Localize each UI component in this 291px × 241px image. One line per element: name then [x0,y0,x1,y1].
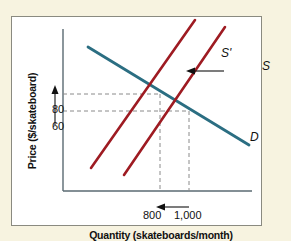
y-axis-title: Price ($/skateboard) [26,56,38,186]
figure-container: Price ($/skateboard) Quantity (skateboar… [0,0,291,241]
demand-curve [88,47,249,145]
supply-shift-arrow-icon [186,68,224,75]
y-tick-label-80: 80 [52,103,64,115]
supply-curve-label: S [262,59,270,73]
x-axis-title: Quantity (skateboards/month) [46,229,276,241]
supply-shifted-curve-label: S' [221,46,231,60]
demand-curve-label: D [250,130,259,144]
y-tick-label-60: 60 [52,120,64,132]
x-tick-label-1000: 1,000 [174,209,202,221]
chart-panel: Price ($/skateboard) Quantity (skateboar… [11,16,262,226]
x-tick-label-800: 800 [143,209,161,221]
